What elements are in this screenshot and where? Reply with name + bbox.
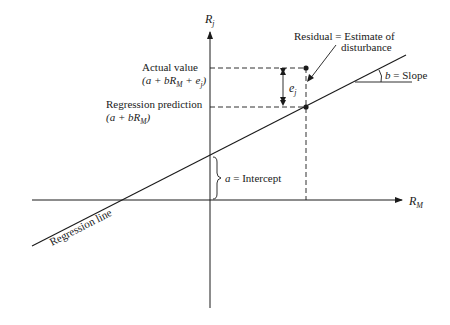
prediction-title: Regression prediction bbox=[106, 98, 203, 110]
x-axis-label: RM bbox=[408, 194, 424, 210]
actual-value-point bbox=[303, 65, 308, 70]
prediction-point bbox=[303, 104, 308, 109]
actual-value-formula: (a + bRM + ej) bbox=[142, 74, 206, 89]
intercept-label: a = Intercept bbox=[225, 172, 281, 184]
slope-label: b = Slope bbox=[385, 69, 427, 81]
regression-diagram: Rj RM ej Residual = Estimate of disturba… bbox=[0, 0, 450, 325]
error-term-label: ej bbox=[289, 81, 297, 97]
residual-arrow-top bbox=[280, 69, 286, 75]
regression-line-label: Regression line bbox=[47, 206, 113, 248]
intercept-brace bbox=[213, 157, 221, 199]
y-axis-label: Rj bbox=[204, 12, 215, 28]
actual-value-title: Actual value bbox=[142, 61, 198, 73]
residual-callout-arrow bbox=[310, 45, 336, 79]
residual-label-line2: disturbance bbox=[341, 41, 392, 53]
slope-angle-arc bbox=[379, 70, 382, 82]
prediction-formula: (a + bRM) bbox=[106, 111, 151, 126]
residual-arrow-bottom bbox=[280, 100, 286, 106]
